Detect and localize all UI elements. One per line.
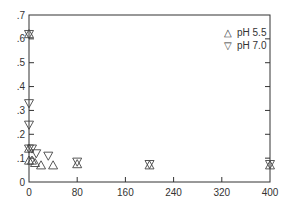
y-tick-label: .1	[17, 153, 26, 164]
x-tick-label: 400	[262, 187, 279, 198]
triangle-down-marker	[44, 152, 53, 160]
y-tick-label: .6	[17, 33, 26, 44]
legend-label-ph55: pH 5.5	[237, 27, 267, 38]
y-tick-label: .3	[17, 105, 26, 116]
x-tick-label: 240	[165, 187, 182, 198]
triangle-up-marker	[37, 161, 46, 169]
x-tick-label: 320	[213, 187, 230, 198]
x-tick-label: 80	[72, 187, 84, 198]
legend-symbol-ph70: ▽	[224, 40, 232, 51]
y-tick-label: .4	[17, 81, 26, 92]
y-tick-label: 0	[19, 177, 25, 188]
y-tick-label: .5	[17, 57, 26, 68]
scatter-chart: 0.1.2.3.4.5.6.7 080160240320400 △ pH 5.5…	[0, 0, 292, 209]
y-tick-label: .7	[17, 10, 26, 21]
x-axis: 080160240320400	[26, 177, 279, 198]
legend-label-ph70: pH 7.0	[237, 40, 267, 51]
y-tick-label: .2	[17, 129, 26, 140]
legend-symbol-ph55: △	[224, 27, 232, 38]
x-tick-label: 0	[26, 187, 32, 198]
plot-frame	[29, 15, 270, 182]
x-tick-label: 160	[117, 187, 134, 198]
triangle-up-marker	[49, 161, 58, 169]
legend: △ pH 5.5 ▽ pH 7.0	[224, 27, 267, 51]
